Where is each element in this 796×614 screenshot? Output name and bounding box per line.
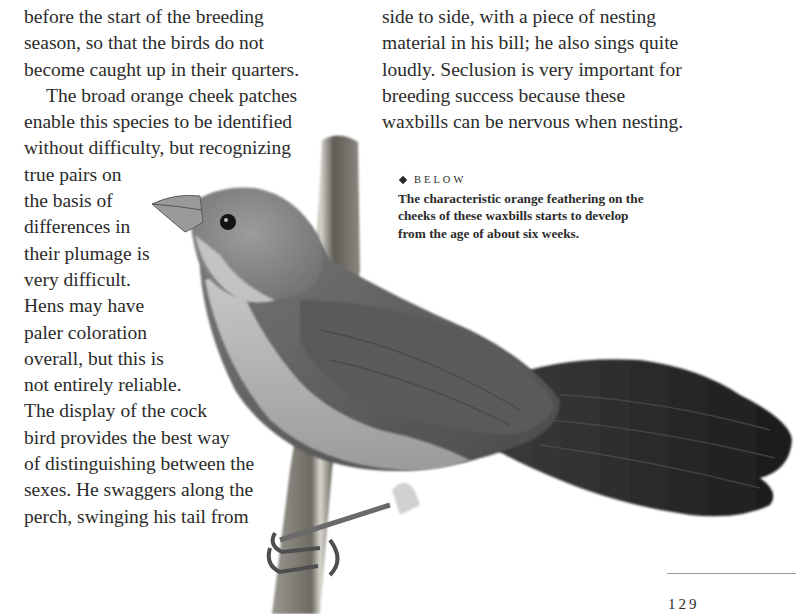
text-line: bird provides the best way <box>24 425 364 451</box>
book-page: before the start of the breeding season,… <box>0 0 796 614</box>
text-line: breeding success because these <box>382 83 782 109</box>
caption-line: cheeks of these waxbills starts to devel… <box>398 207 718 224</box>
text-line: become caught up in their quarters. <box>24 57 364 83</box>
image-caption: BELOW The characteristic orange featheri… <box>398 172 718 242</box>
caption-line: The characteristic orange feathering on … <box>398 190 718 207</box>
text-line: very difficult. <box>24 267 364 293</box>
text-line: Hens may have <box>24 293 364 319</box>
text-line: side to side, with a piece of nesting <box>382 4 782 30</box>
text-line: loudly. Seclusion is very important for <box>382 57 782 83</box>
caption-line: from the age of about six weeks. <box>398 225 718 242</box>
text-line: paler coloration <box>24 320 364 346</box>
body-text-left-column: before the start of the breeding season,… <box>24 4 364 530</box>
paragraph-start-line: The broad orange cheek patches <box>24 83 364 109</box>
text-line: season, so that the birds do not <box>24 30 364 56</box>
text-line: not entirely reliable. <box>24 372 364 398</box>
text-line: without difficulty, but recognizing <box>24 135 364 161</box>
caption-label: BELOW <box>398 172 718 188</box>
text-line: their plumage is <box>24 241 364 267</box>
text-line: enable this species to be identified <box>24 109 364 135</box>
caption-text: The characteristic orange feathering on … <box>398 190 718 242</box>
text-line: perch, swinging his tail from <box>24 504 364 530</box>
text-line: of distinguishing between the <box>24 451 364 477</box>
caption-label-text: BELOW <box>414 172 466 188</box>
text-line: sexes. He swaggers along the <box>24 477 364 503</box>
text-line: material in his bill; he also sings quit… <box>382 30 782 56</box>
text-line: waxbills can be nervous when nesting. <box>382 109 782 135</box>
text-line: before the start of the breeding <box>24 4 364 30</box>
diamond-bullet-icon <box>399 176 407 184</box>
text-line: The display of the cock <box>24 398 364 424</box>
body-text-right-column: side to side, with a piece of nesting ma… <box>382 4 782 135</box>
text-line: true pairs on <box>24 162 364 188</box>
text-line: the basis of <box>24 188 364 214</box>
text-line: overall, but this is <box>24 346 364 372</box>
text-line: differences in <box>24 214 364 240</box>
